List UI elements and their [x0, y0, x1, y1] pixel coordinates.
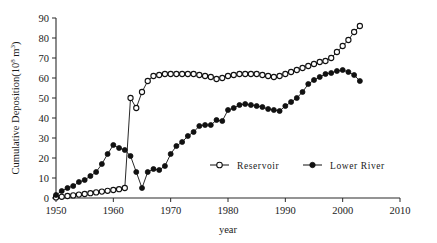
data-point: [88, 174, 93, 179]
data-point: [151, 73, 156, 78]
x-tick-label: 1970: [160, 205, 181, 216]
data-point: [94, 170, 99, 175]
data-point: [140, 186, 145, 191]
data-point: [266, 107, 271, 112]
data-point: [288, 69, 293, 74]
data-point: [340, 68, 345, 73]
data-point: [352, 29, 357, 34]
data-point: [346, 37, 351, 42]
data-point: [82, 178, 87, 183]
data-point: [243, 102, 248, 107]
data-point: [174, 144, 179, 149]
data-point: [191, 130, 196, 135]
data-point: [111, 143, 116, 148]
y-axis: 0102030405060708090: [39, 13, 57, 204]
data-point: [283, 104, 288, 109]
data-point: [289, 100, 294, 105]
data-point: [88, 191, 93, 196]
data-point: [277, 73, 282, 78]
data-point: [99, 189, 104, 194]
data-point: [157, 72, 162, 77]
data-point: [180, 71, 185, 76]
data-point: [271, 74, 276, 79]
data-point: [128, 95, 133, 100]
data-point: [357, 23, 362, 28]
data-point: [65, 193, 70, 198]
data-point: [191, 71, 196, 76]
data-point: [134, 170, 139, 175]
data-point: [300, 90, 305, 95]
data-point: [260, 105, 265, 110]
y-tick-label: 20: [39, 153, 50, 164]
data-series-group: [53, 23, 362, 200]
data-point: [208, 74, 213, 79]
series-reservoir: [53, 23, 362, 200]
data-point: [329, 71, 334, 76]
data-point: [357, 79, 362, 84]
data-point: [346, 70, 351, 75]
data-point: [231, 106, 236, 111]
data-point: [283, 71, 288, 76]
data-point: [122, 148, 127, 153]
data-point: [203, 123, 208, 128]
data-point: [157, 168, 162, 173]
data-point: [334, 49, 339, 54]
data-point: [214, 76, 219, 81]
data-point: [277, 109, 282, 114]
data-point: [220, 119, 225, 124]
x-tick-label: 1980: [218, 205, 239, 216]
x-tick-label: 1950: [46, 205, 67, 216]
data-point: [151, 167, 156, 172]
legend-label: Lower River: [330, 161, 385, 171]
data-point: [243, 71, 248, 76]
data-point: [311, 61, 316, 66]
x-axis: 1950196019701980199020002010: [46, 198, 411, 216]
data-point: [208, 123, 213, 128]
data-point: [168, 152, 173, 157]
series-lower-river: [54, 68, 363, 198]
data-point: [116, 187, 121, 192]
data-point: [214, 118, 219, 123]
y-tick-label: 70: [39, 53, 50, 64]
data-point: [76, 192, 81, 197]
data-point: [231, 72, 236, 77]
data-point: [248, 103, 253, 108]
data-point: [340, 43, 345, 48]
data-point: [306, 63, 311, 68]
data-point: [266, 73, 271, 78]
data-point: [294, 67, 299, 72]
data-point: [65, 186, 70, 191]
data-point: [237, 71, 242, 76]
data-point: [334, 69, 339, 74]
data-point: [197, 124, 202, 129]
data-point: [185, 71, 190, 76]
x-tick-label: 2010: [390, 205, 411, 216]
y-tick-label: 40: [39, 113, 50, 124]
y-tick-label: 0: [44, 193, 49, 204]
y-axis-title: Cumulative Deposition(108 m3): [9, 41, 22, 175]
data-point: [162, 71, 167, 76]
data-point: [59, 189, 64, 194]
data-point: [76, 180, 81, 185]
data-point: [117, 146, 122, 151]
data-point: [317, 59, 322, 64]
data-point: [139, 89, 144, 94]
data-point: [294, 96, 299, 101]
data-point: [254, 71, 259, 76]
y-tick-label: 50: [39, 93, 50, 104]
data-point: [168, 71, 173, 76]
data-point: [317, 75, 322, 80]
data-point: [145, 78, 150, 83]
data-point: [99, 162, 104, 167]
data-point: [59, 194, 64, 199]
data-point: [128, 154, 133, 159]
x-tick-label: 1990: [275, 205, 296, 216]
x-axis-title: year: [219, 224, 238, 235]
data-point: [122, 185, 127, 190]
data-point: [197, 72, 202, 77]
data-point: [180, 140, 185, 145]
x-tick-label: 1960: [103, 205, 124, 216]
y-tick-label: 30: [39, 133, 50, 144]
data-point: [312, 78, 317, 83]
data-point: [111, 187, 116, 192]
